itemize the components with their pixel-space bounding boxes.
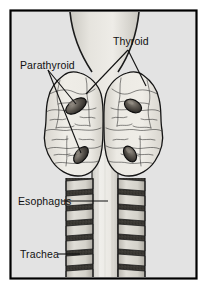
trachea-left: [66, 178, 93, 281]
figure-container: Parathyroid Thyroid Esophagus Trachea: [0, 0, 207, 289]
label-esophagus: Esophagus: [18, 195, 71, 207]
label-trachea: Trachea: [20, 248, 59, 260]
label-parathyroid: Parathyroid: [20, 59, 75, 71]
thyroid-lobe-right: [104, 72, 163, 176]
thyroid-lobe-left: [44, 72, 103, 176]
trachea-right: [118, 178, 145, 281]
label-thyroid: Thyroid: [113, 35, 149, 47]
anatomy-diagram: Parathyroid Thyroid Esophagus Trachea: [0, 0, 207, 289]
